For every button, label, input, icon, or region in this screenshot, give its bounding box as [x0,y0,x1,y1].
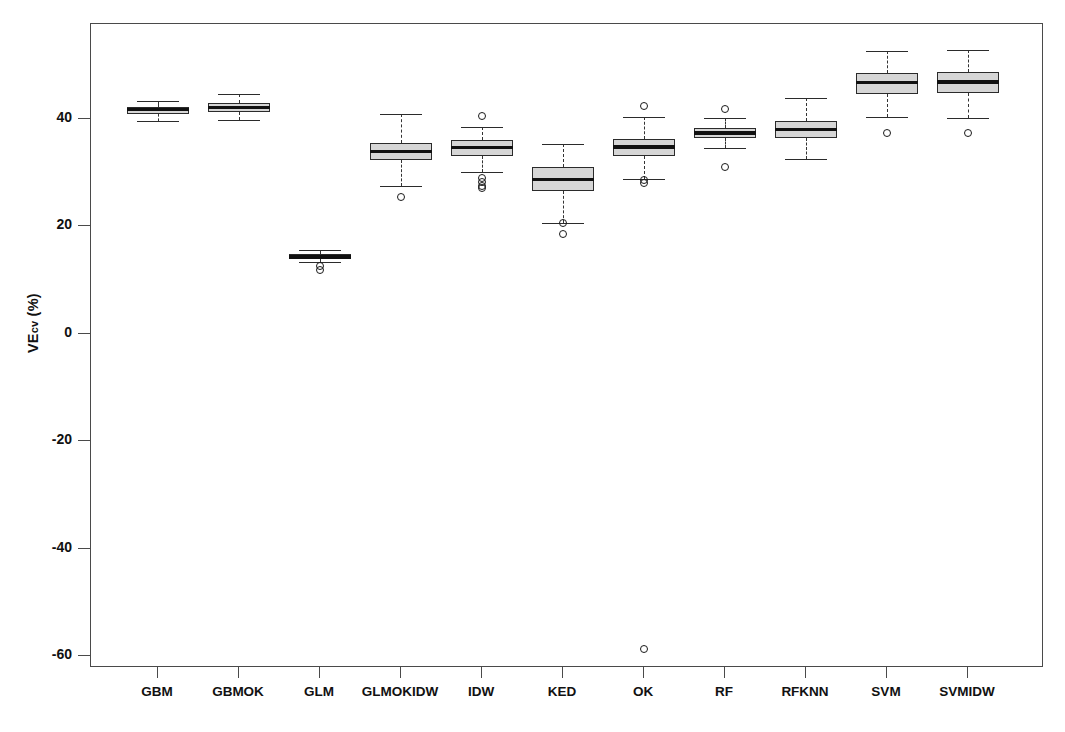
outlier-point [397,193,405,201]
plot-frame [90,23,1043,667]
y-tick-label: -40 [20,539,72,555]
cap-lower [380,186,422,187]
cap-lower [785,159,827,160]
y-tick-mark [78,655,90,656]
outlier-point [640,102,648,110]
x-tick-label-svm: SVM [871,684,900,699]
median-line [370,150,432,153]
median-line [856,81,918,84]
whisker-upper [239,94,240,103]
whisker-lower [887,94,888,117]
cap-lower [218,120,260,121]
cap-upper [866,51,908,52]
outlier-point [559,230,567,238]
whisker-lower [401,160,402,186]
y-tick-mark [78,118,90,119]
cap-upper [380,114,422,115]
whisker-lower [725,138,726,148]
cap-upper [299,250,341,251]
outlier-point [883,129,891,137]
outlier-point [478,112,486,120]
x-tick-label-ok: OK [633,684,653,699]
whisker-lower [968,93,969,118]
y-tick-label: -20 [20,431,72,447]
x-tick-mark [238,667,239,678]
whisker-upper [482,127,483,140]
whisker-lower [806,138,807,159]
y-axis-label-unit: (%) [25,293,41,320]
outlier-point [964,129,972,137]
x-tick-label-svmidw: SVMIDW [939,684,995,699]
cap-upper [461,127,503,128]
x-tick-mark [724,667,725,678]
whisker-lower [563,191,564,223]
y-tick-label: -60 [20,646,72,662]
outlier-point [721,105,729,113]
x-tick-label-rf: RF [715,684,733,699]
cap-lower [704,148,746,149]
cap-lower [866,117,908,118]
x-tick-mark [562,667,563,678]
outlier-point [316,266,324,274]
x-tick-label-rfknn: RFKNN [781,684,828,699]
x-tick-label-glm: GLM [304,684,334,699]
median-line [451,146,513,149]
cap-upper [947,50,989,51]
x-tick-mark [967,667,968,678]
cap-upper [785,98,827,99]
y-tick-label: 0 [20,324,72,340]
cap-upper [218,94,260,95]
cap-lower [461,172,503,173]
cap-lower [947,118,989,119]
x-tick-mark [400,667,401,678]
x-tick-mark [319,667,320,678]
x-tick-mark [481,667,482,678]
x-tick-mark [157,667,158,678]
median-line [127,108,189,111]
outlier-point [478,184,486,192]
y-tick-mark [78,440,90,441]
x-tick-label-gbm: GBM [141,684,173,699]
y-tick-mark [78,225,90,226]
x-tick-mark [886,667,887,678]
whisker-lower [482,156,483,173]
whisker-upper [968,50,969,72]
outlier-point [640,179,648,187]
cap-upper [623,117,665,118]
whisker-upper [644,117,645,139]
whisker-lower [239,112,240,120]
y-tick-label: 20 [20,216,72,232]
median-line [613,145,675,148]
x-tick-label-ked: KED [548,684,577,699]
whisker-upper [401,114,402,143]
median-line [289,255,351,258]
median-line [532,178,594,181]
whisker-upper [806,98,807,122]
median-line [937,80,999,83]
y-tick-mark [78,333,90,334]
x-tick-mark [805,667,806,678]
cap-upper [542,144,584,145]
boxplot-figure: VEcv (%) 40200-20-40-60 GBMGBMOKGLMGLMOK… [0,0,1065,732]
cap-upper [137,101,179,102]
whisker-upper [563,144,564,168]
outlier-point [721,163,729,171]
y-tick-mark [78,548,90,549]
median-line [694,131,756,134]
x-tick-mark [643,667,644,678]
x-tick-label-idw: IDW [468,684,494,699]
median-line [775,128,837,131]
y-tick-label: 40 [20,109,72,125]
x-tick-label-gbmok: GBMOK [212,684,264,699]
median-line [208,106,270,109]
whisker-lower [158,114,159,122]
whisker-upper [887,51,888,72]
x-tick-label-glmokidw: GLMOKIDW [362,684,439,699]
cap-upper [704,118,746,119]
outlier-point [559,219,567,227]
whisker-upper [725,118,726,128]
outlier-point [640,645,648,653]
cap-lower [137,121,179,122]
